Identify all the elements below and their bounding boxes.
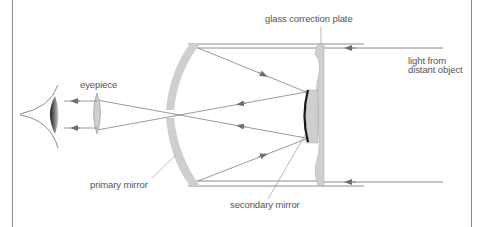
label-light-line2: distant object (408, 65, 463, 75)
eye-icon (20, 85, 59, 148)
label-correction-plate: glass correction plate (265, 14, 353, 24)
leader-secondary-mirror (268, 135, 305, 199)
label-eyepiece: eyepiece (80, 80, 117, 90)
leader-primary-mirror (152, 155, 176, 178)
rays-secondary-to-eyepiece (97, 92, 306, 138)
primary-mirror (166, 44, 200, 186)
rays-eyepiece-to-eye (64, 101, 97, 128)
telescope-diagram (0, 0, 479, 227)
label-primary-mirror: primary mirror (90, 180, 148, 190)
secondary-mirror-holder (306, 90, 318, 143)
tube-top-wall (188, 44, 364, 48)
label-secondary-mirror: secondary mirror (230, 200, 300, 210)
